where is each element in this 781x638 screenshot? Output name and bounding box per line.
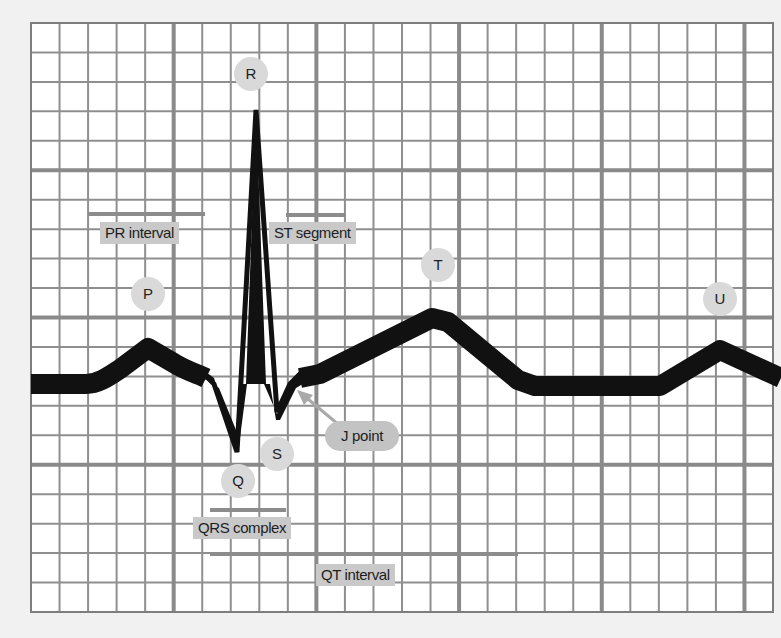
- wave-label-t: T: [421, 248, 455, 282]
- page-title-fragment: [0, 0, 781, 6]
- wave-label-q: Q: [221, 464, 255, 498]
- qt-interval-label: QT interval: [316, 564, 395, 586]
- wave-label-s: S: [260, 437, 294, 471]
- wave-label-u: U: [703, 282, 737, 316]
- wave-label-p: P: [131, 277, 165, 311]
- ecg-diagram: R P T U S Q PR interval ST segment QRS c…: [0, 0, 781, 638]
- pr-interval-label: PR interval: [100, 222, 179, 244]
- ecg-grid-paper: [0, 0, 781, 638]
- st-segment-label: ST segment: [269, 222, 356, 244]
- j-point-callout: J point: [325, 421, 399, 451]
- wave-label-r: R: [234, 57, 268, 91]
- qrs-complex-label: QRS complex: [193, 517, 291, 539]
